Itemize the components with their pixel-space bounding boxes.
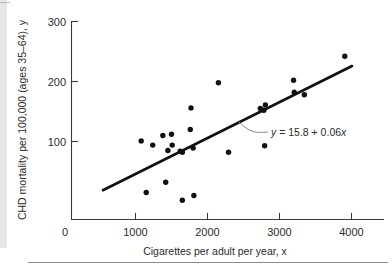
data-point bbox=[226, 150, 231, 155]
y-tick-label-100: 100 bbox=[48, 136, 66, 148]
y-tick-label-300: 300 bbox=[48, 16, 66, 28]
data-point bbox=[292, 90, 297, 95]
x-axis-ticks bbox=[136, 213, 352, 220]
data-point bbox=[263, 102, 268, 107]
y-axis-ticks bbox=[72, 22, 79, 142]
annotation-leader-line bbox=[239, 122, 268, 132]
data-point bbox=[302, 92, 307, 97]
data-point bbox=[190, 145, 195, 150]
data-point bbox=[170, 142, 175, 147]
regression-equation-label: y = 15.8 + 0.06x bbox=[270, 126, 347, 138]
data-point bbox=[180, 198, 185, 203]
data-point bbox=[342, 54, 347, 59]
data-point bbox=[261, 108, 266, 113]
x-tick-label-2000: 2000 bbox=[195, 226, 219, 238]
x-tick-label-1000: 1000 bbox=[123, 226, 147, 238]
data-point bbox=[291, 78, 296, 83]
data-point bbox=[165, 148, 170, 153]
x-axis-title: Cigarettes per adult per year, x bbox=[143, 245, 287, 257]
data-point bbox=[180, 150, 185, 155]
y-axis-title: CHD mortality per 100,000 (ages 35–64), … bbox=[16, 19, 28, 220]
data-point bbox=[188, 105, 193, 110]
data-point bbox=[169, 132, 174, 137]
figure-container: 300 200 100 0 1000 2000 3000 4000 Cigare… bbox=[0, 0, 392, 274]
y-tick-label-200: 200 bbox=[48, 76, 66, 88]
x-tick-label-4000: 4000 bbox=[339, 226, 363, 238]
data-point bbox=[216, 80, 221, 85]
data-point bbox=[163, 180, 168, 185]
data-point bbox=[188, 127, 193, 132]
data-point bbox=[191, 193, 196, 198]
data-point bbox=[144, 190, 149, 195]
x-tick-label-0: 0 bbox=[62, 226, 68, 238]
scatter-plot-svg: 300 200 100 0 1000 2000 3000 4000 Cigare… bbox=[0, 0, 392, 274]
data-point bbox=[262, 143, 267, 148]
data-point bbox=[160, 133, 165, 138]
data-point bbox=[138, 138, 143, 143]
data-point bbox=[150, 142, 155, 147]
x-tick-label-3000: 3000 bbox=[267, 226, 291, 238]
